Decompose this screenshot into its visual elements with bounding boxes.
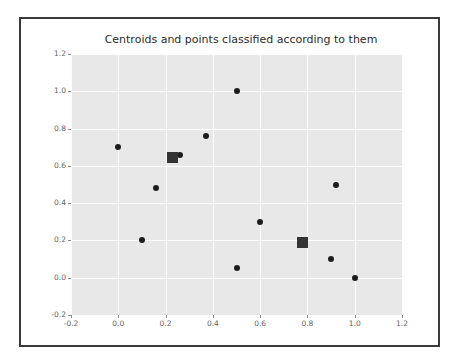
y-axis-tick-mark <box>68 278 71 279</box>
figure-card: Centroids and points classified accordin… <box>19 17 440 347</box>
x-axis-tick-mark <box>307 315 308 318</box>
y-axis-tick-label: 0.4 <box>40 198 66 207</box>
x-axis-tick-mark <box>260 315 261 318</box>
x-axis-tick-label: 0.6 <box>245 319 275 328</box>
gridline-vertical <box>118 54 119 315</box>
y-axis-tick-mark <box>68 240 71 241</box>
gridline-vertical <box>402 54 403 315</box>
gridline-horizontal <box>71 54 402 55</box>
data-point-marker <box>153 185 159 191</box>
x-axis-tick-label: 0.8 <box>292 319 322 328</box>
y-axis-tick-label: 1.0 <box>40 86 66 95</box>
data-point-marker <box>234 88 240 94</box>
gridline-horizontal <box>71 315 402 316</box>
gridline-vertical <box>260 54 261 315</box>
data-point-marker <box>234 265 240 271</box>
x-axis-tick-mark <box>213 315 214 318</box>
data-point-marker <box>257 219 263 225</box>
gridline-horizontal <box>71 129 402 130</box>
data-point-marker <box>333 182 339 188</box>
y-axis-tick-label: 0.2 <box>40 235 66 244</box>
y-axis-tick-mark <box>68 54 71 55</box>
data-point-marker <box>203 133 209 139</box>
x-axis-tick-mark <box>71 315 72 318</box>
centroid-marker <box>297 237 308 248</box>
x-axis-tick-label: 1.2 <box>387 319 417 328</box>
data-point-marker <box>139 237 145 243</box>
y-axis-tick-label: 0.8 <box>40 124 66 133</box>
y-axis-tick-mark <box>68 166 71 167</box>
x-axis-tick-mark <box>166 315 167 318</box>
x-axis-tick-label: 0.0 <box>103 319 133 328</box>
chart-title: Centroids and points classified accordin… <box>71 33 411 46</box>
gridline-vertical <box>213 54 214 315</box>
x-axis-tick-label: -0.2 <box>56 319 86 328</box>
y-axis-tick-mark <box>68 129 71 130</box>
y-axis-tick-label: 1.2 <box>40 49 66 58</box>
gridline-horizontal <box>71 203 402 204</box>
centroid-marker <box>167 152 178 163</box>
y-axis-tick-label: 0.0 <box>40 273 66 282</box>
x-axis-tick-mark <box>118 315 119 318</box>
x-axis-tick-label: 1.0 <box>340 319 370 328</box>
x-axis-tick-label: 0.4 <box>198 319 228 328</box>
gridline-vertical <box>307 54 308 315</box>
data-point-marker <box>115 144 121 150</box>
x-axis-tick-label: 0.2 <box>151 319 181 328</box>
data-point-marker <box>352 275 358 281</box>
data-point-marker <box>328 256 334 262</box>
gridline-vertical <box>71 54 72 315</box>
y-axis-tick-label: -0.2 <box>40 310 66 319</box>
gridline-horizontal <box>71 240 402 241</box>
y-axis-tick-mark <box>68 203 71 204</box>
y-axis-tick-label: 0.6 <box>40 161 66 170</box>
gridline-horizontal <box>71 166 402 167</box>
x-axis-tick-mark <box>402 315 403 318</box>
gridline-vertical <box>166 54 167 315</box>
x-axis-tick-mark <box>355 315 356 318</box>
scatter-plot-area[interactable] <box>71 54 402 315</box>
y-axis-tick-mark <box>68 91 71 92</box>
